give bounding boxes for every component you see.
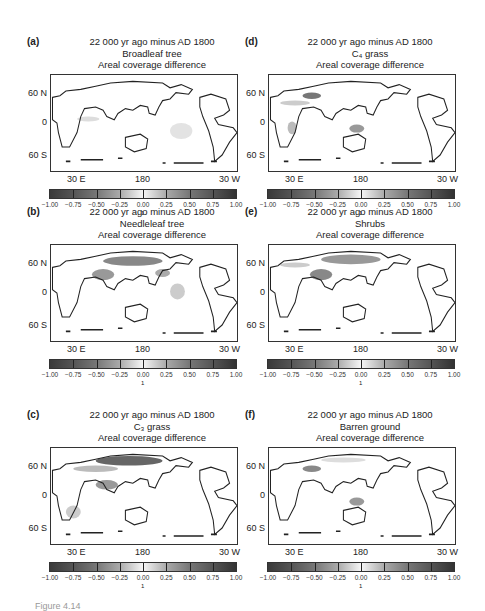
y-tick-60s: 60 S [23,320,47,330]
panel-subtitle-2: Areal coverage difference [47,229,257,240]
x-tick-30w: 30 W [219,174,240,184]
y-tick-0: 0 [23,117,47,127]
colorbar-tick-label: 0.75 [424,574,437,581]
panel-f: (f) 22 000 yr ago minus AD 1800 Barren g… [245,409,485,609]
x-tick-30w: 30 W [437,174,458,184]
x-tick-30e: 30 E [285,547,304,557]
panel-subtitle: Shrubs [265,218,475,229]
panel-title: 22 000 yr ago minus AD 1800 [265,206,475,217]
y-tick-60n: 60 N [241,88,265,98]
colorbar-tick-label: 0.25 [378,574,391,581]
colorbar-tick-label: 1.00 [448,574,461,581]
colorbar-tick-label: 0.50 [183,574,196,581]
panel-b: (b) 22 000 yr ago minus AD 1800 Needlele… [27,206,267,406]
colorbar-tick-label: 0.75 [424,371,437,378]
x-tick-30e: 30 E [285,174,304,184]
x-tick-30w: 30 W [219,344,240,354]
y-tick-60n: 60 N [241,258,265,268]
panel-e: (e) 22 000 yr ago minus AD 1800 Shrubs A… [245,206,485,406]
colorbar-unit: 1 [359,583,362,589]
panel-subtitle: Broadleaf tree [47,48,257,59]
x-tick-30e: 30 E [285,344,304,354]
colorbar [49,189,237,199]
panel-title: 22 000 yr ago minus AD 1800 [265,409,475,420]
panel-label: (d) [245,36,258,47]
figure-caption: Figure 4.14 [35,601,81,611]
y-tick-0: 0 [241,117,265,127]
x-tick-180: 180 [135,547,150,557]
x-tick-180: 180 [353,344,368,354]
colorbar-tick-label: −0.75 [283,574,299,581]
x-tick-30e: 30 E [67,344,86,354]
colorbar-tick-label: −0.50 [306,371,322,378]
colorbar-unit: 1 [141,380,144,386]
y-tick-0: 0 [23,287,47,297]
x-tick-30e: 30 E [67,174,86,184]
colorbar-tick-label: 1.00 [448,371,461,378]
panel-subtitle-2: Areal coverage difference [47,59,257,70]
colorbar-tick-label: 0.75 [206,574,219,581]
y-tick-60n: 60 N [241,461,265,471]
y-tick-0: 0 [241,287,265,297]
y-tick-60n: 60 N [23,258,47,268]
colorbar-tick-label: −1.00 [260,574,276,581]
colorbar-tick-label: 0.50 [401,574,414,581]
colorbar-tick-label: 1.00 [230,574,243,581]
colorbar-tick-label: 0.25 [160,371,173,378]
panel-subtitle: C₄ grass [265,48,475,59]
colorbar-unit: 1 [359,380,362,386]
colorbar-tick-label: 0.25 [378,371,391,378]
world-map [268,447,456,545]
panel-title: 22 000 yr ago minus AD 1800 [47,36,257,47]
colorbar-tick-label: −0.25 [330,371,346,378]
colorbar-tick-label: 0.00 [355,574,368,581]
y-tick-60n: 60 N [23,461,47,471]
panel-c: (c) 22 000 yr ago minus AD 1800 C₃ grass… [27,409,267,609]
colorbar-tick-label: 0.75 [206,371,219,378]
colorbar [49,562,237,572]
colorbar [267,562,455,572]
colorbar-tick-label: −1.00 [42,371,58,378]
world-map [50,74,238,172]
x-tick-30e: 30 E [67,547,86,557]
panel-title: 22 000 yr ago minus AD 1800 [265,36,475,47]
x-tick-180: 180 [353,174,368,184]
x-tick-180: 180 [135,174,150,184]
colorbar-tick-label: 1.00 [230,371,243,378]
colorbar-tick-label: 0.50 [183,371,196,378]
panel-title: 22 000 yr ago minus AD 1800 [47,409,257,420]
y-tick-60s: 60 S [23,150,47,160]
colorbar-tick-label: −0.75 [283,371,299,378]
world-map [50,244,238,342]
colorbar-tick-label: 0.25 [160,574,173,581]
colorbar-unit: 1 [141,583,144,589]
panel-label: (a) [27,36,39,47]
x-tick-30w: 30 W [219,547,240,557]
panel-subtitle-2: Areal coverage difference [265,432,475,443]
colorbar-tick-label: −0.50 [88,371,104,378]
colorbar [49,359,237,369]
colorbar-tick-label: −1.00 [260,371,276,378]
y-tick-0: 0 [23,490,47,500]
panel-subtitle: Barren ground [265,421,475,432]
world-map [268,74,456,172]
colorbar-tick-label: −1.00 [42,574,58,581]
panel-subtitle: C₃ grass [47,421,257,432]
x-tick-180: 180 [135,344,150,354]
panel-subtitle: Needleleaf tree [47,218,257,229]
panel-label: (c) [27,409,39,420]
panel-subtitle-2: Areal coverage difference [265,59,475,70]
panel-label: (b) [27,206,40,217]
colorbar-tick-label: −0.50 [88,574,104,581]
colorbar [267,359,455,369]
colorbar-tick-label: −0.25 [112,371,128,378]
colorbar [267,189,455,199]
x-tick-180: 180 [353,547,368,557]
y-tick-0: 0 [241,490,265,500]
y-tick-60n: 60 N [23,88,47,98]
colorbar-tick-label: 0.00 [137,574,150,581]
x-tick-30w: 30 W [437,547,458,557]
y-tick-60s: 60 S [23,523,47,533]
colorbar-tick-label: −0.75 [65,371,81,378]
colorbar-tick-label: 0.00 [355,371,368,378]
